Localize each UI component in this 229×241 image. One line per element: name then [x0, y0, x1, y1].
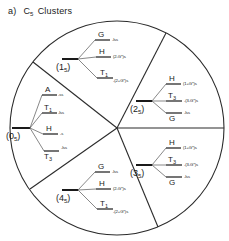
term-label-0_5-3: T3: [44, 152, 52, 162]
branch-line-1_5-1: [78, 57, 96, 59]
annotation-1_5-2: -(2+G*)s: [113, 78, 128, 83]
annotation-1_5-0: -lss: [112, 37, 118, 42]
branch-line-4_5-2: [78, 190, 97, 209]
annotation-0_5-2: -s: [60, 131, 63, 136]
term-label-1_5-0: G: [98, 30, 104, 40]
term-label-2_5-1: T3: [168, 91, 176, 101]
annotation-3_5-1: -(3-G*)s: [184, 162, 198, 167]
branch-line-4_5-1: [78, 189, 96, 190]
term-label-4_5-0: G: [98, 162, 104, 172]
annotation-2_5-0: (1+G*)s: [183, 81, 197, 86]
term-label-0_5-2: H: [46, 124, 52, 134]
branch-line-0_5-0: [30, 95, 42, 128]
term-label-0_5-1: T1: [44, 103, 52, 113]
figure-panel: a)C5Clusters: [0, 0, 229, 241]
branch-line-0_5-1: [30, 113, 42, 128]
term-label-1_5-2: T1: [100, 68, 108, 78]
sector-label-4_5: (45): [56, 193, 70, 204]
annotation-0_5-1: -lss: [58, 110, 64, 115]
annotation-1_5-1: (2-G*)s: [113, 54, 126, 59]
annotation-0_5-0: -ss: [58, 92, 63, 97]
sector-label-2_5: (25): [130, 104, 144, 115]
annotation-2_5-1: -(3-G*)s: [184, 98, 198, 103]
term-label-4_5-2: T1: [100, 199, 108, 209]
sector-label-0_5: (05): [6, 131, 20, 142]
annotation-4_5-1: (2-G*)s: [113, 186, 126, 191]
annotation-4_5-2: -(2+G*)s: [113, 209, 128, 214]
term-label-4_5-1: H: [99, 179, 105, 189]
term-label-2_5-0: H: [169, 74, 175, 84]
branch-line-1_5-0: [78, 40, 95, 59]
term-label-3_5-1: T3: [168, 155, 176, 165]
branch-line-2_5-0: [152, 84, 166, 101]
branch-line-2_5-2: [152, 101, 166, 113]
term-label-3_5-2: G: [169, 178, 175, 188]
term-label-0_5-0: A: [45, 85, 50, 95]
annotation-4_5-0: -lss: [112, 169, 118, 174]
branch-line-3_5-0: [152, 148, 166, 165]
branch-line-1_5-2: [78, 59, 97, 78]
annotation-0_5-3: -lss: [61, 145, 67, 150]
annotation-2_5-2: -lss: [184, 110, 190, 115]
annotation-3_5-2: -lss: [184, 174, 190, 179]
sector-label-1_5: (15): [56, 62, 70, 73]
branch-line-4_5-0: [78, 172, 95, 190]
annotation-3_5-0: (1+G*)s: [183, 145, 197, 150]
term-label-2_5-2: G: [169, 114, 175, 124]
branch-line-3_5-2: [152, 165, 166, 177]
sector-label-3_5: (35): [130, 168, 144, 179]
term-label-3_5-0: H: [169, 138, 175, 148]
term-label-1_5-1: H: [99, 47, 105, 57]
